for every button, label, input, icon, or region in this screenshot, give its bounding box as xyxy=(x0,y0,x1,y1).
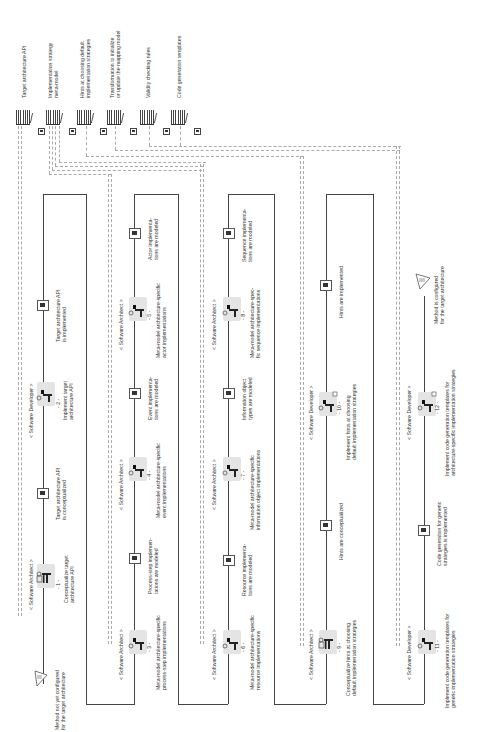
activity-5[interactable] xyxy=(126,295,148,323)
start-triangle-icon xyxy=(33,670,49,688)
state-document-icon[interactable] xyxy=(37,300,49,311)
artifact-label-transformation: Transformation to initialize or update t… xyxy=(109,31,121,98)
activity-number: - 1 - xyxy=(55,580,61,589)
artifact-marker-icon xyxy=(130,128,137,135)
flow-line xyxy=(399,146,400,646)
state-document-icon[interactable] xyxy=(129,228,141,239)
flow-line xyxy=(300,156,301,646)
state-label: Event implementa- tions are modeled xyxy=(147,377,159,420)
flow-connector xyxy=(228,194,274,195)
state-document-icon[interactable] xyxy=(320,280,332,291)
flow-line xyxy=(200,164,201,644)
state-document-icon[interactable] xyxy=(418,525,430,536)
artifact-label-strategy-metamodel: Implementation strategy meta-model xyxy=(47,43,59,98)
artifact-label-hints: Hints at choosing default implementation… xyxy=(79,39,91,98)
flow-line xyxy=(49,174,111,175)
flow-connector xyxy=(373,704,424,705)
activity-10[interactable] xyxy=(316,390,338,418)
flow-connector xyxy=(178,704,228,705)
flow-line xyxy=(396,146,397,646)
activity-3[interactable] xyxy=(126,628,148,656)
activity-7[interactable] xyxy=(220,455,242,483)
artifact-marker-icon xyxy=(69,128,76,135)
flow-line xyxy=(18,126,19,616)
activity-number: - 11 - xyxy=(434,640,440,652)
flow-line xyxy=(52,126,53,170)
activity-label: Implement code generation templates for … xyxy=(444,614,456,708)
activity-role: < Software Architect > xyxy=(211,629,217,680)
artifact-label-codegen-templates: Code generation templates xyxy=(176,36,182,98)
activity-number: - 8 - xyxy=(240,311,246,320)
flow-line xyxy=(21,126,22,616)
artifact-label-validity-rules: Validity checking rules xyxy=(145,47,151,98)
flow-line xyxy=(52,170,202,171)
artifact-icon xyxy=(46,110,62,124)
artifact-icon xyxy=(140,110,156,124)
activity-label: Meta-model architecture-specific informa… xyxy=(249,450,261,530)
state-document-icon[interactable] xyxy=(223,388,235,399)
activity-label: Meta-model architecture-specific resourc… xyxy=(249,615,261,690)
activity-role: < Software Architect > xyxy=(308,629,314,680)
state-document-icon[interactable] xyxy=(223,228,235,239)
activity-number: - 5 - xyxy=(146,311,152,320)
flow-line xyxy=(86,156,304,157)
activity-role: < Software Architect > xyxy=(28,559,34,610)
flow-connector xyxy=(178,194,179,704)
artifact-icon xyxy=(16,110,32,124)
artifact-icon xyxy=(77,110,93,124)
flow-line xyxy=(303,156,304,646)
flow-connector xyxy=(134,194,178,195)
flow-line xyxy=(55,166,203,167)
activity-label: Meta-model architecture-specific process… xyxy=(155,615,167,690)
activity-6[interactable] xyxy=(220,628,242,656)
state-label: Sequence implementa- tions are modeled xyxy=(241,209,253,262)
artifact-marker-icon xyxy=(100,128,107,135)
activity-role: < Software Architect > xyxy=(118,459,124,510)
flow-connector xyxy=(86,194,87,704)
artifact-icon xyxy=(107,110,123,124)
start-state-label: Method not yet configured for the target… xyxy=(54,670,66,730)
flow-line xyxy=(180,126,181,146)
activity-number: - 10 - xyxy=(336,402,342,414)
activity-role: < Software Architect > xyxy=(118,629,124,680)
activity-4[interactable] xyxy=(126,455,148,483)
state-document-icon[interactable] xyxy=(320,520,332,531)
activity-2[interactable] xyxy=(34,380,56,408)
activity-1[interactable] xyxy=(34,562,56,590)
state-document-icon[interactable] xyxy=(223,555,235,566)
flow-line xyxy=(115,150,400,151)
activity-role: < Software Developer > xyxy=(308,386,314,441)
state-label: Information object types are modeled xyxy=(241,377,253,420)
activity-role: < Software Developer > xyxy=(406,386,412,441)
activity-8[interactable] xyxy=(220,295,242,323)
activity-number: - 6 - xyxy=(240,643,246,652)
flow-line xyxy=(108,174,109,644)
flow-line xyxy=(149,146,401,147)
flow-connector xyxy=(326,194,373,195)
state-label: Code generation for generic strategies i… xyxy=(436,502,448,566)
flow-line xyxy=(115,126,116,150)
activity-label: Conceptualize hints at choosing default … xyxy=(345,620,357,696)
end-triangle-icon xyxy=(414,272,432,290)
state-label: Target architecture API is implemented xyxy=(55,290,67,342)
flow-connector xyxy=(274,194,275,704)
artifact-marker-icon xyxy=(163,128,170,135)
flow-line xyxy=(111,174,112,644)
flow-connector xyxy=(274,704,326,705)
state-document-icon[interactable] xyxy=(37,488,49,499)
state-label: Process-step implemen- tations are model… xyxy=(147,538,159,594)
activity-number: - 3 - xyxy=(146,643,152,652)
flow-line xyxy=(59,162,206,163)
state-document-icon[interactable] xyxy=(129,388,141,399)
activity-number: - 4 - xyxy=(146,471,152,480)
flow-line xyxy=(203,164,204,644)
activity-label: Meta-model architecture-specific event i… xyxy=(155,443,167,518)
flow-connector xyxy=(373,194,374,704)
activity-label: Implement code generation templates for … xyxy=(444,369,456,476)
flow-connector xyxy=(86,704,135,705)
flow-line-row-1 xyxy=(43,194,44,684)
flow-line xyxy=(55,126,56,166)
activity-9[interactable] xyxy=(316,628,338,656)
state-document-icon[interactable] xyxy=(129,553,141,564)
flow-connector xyxy=(43,194,86,195)
